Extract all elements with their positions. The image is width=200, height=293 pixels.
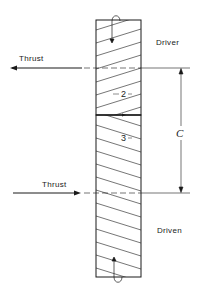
- driven-label: Driven: [157, 226, 182, 235]
- contact-point-marker: [122, 114, 126, 117]
- gear-3-body: [96, 115, 141, 277]
- gear-2-hatching: [96, 16, 141, 121]
- thrust-bottom-label: Thrust: [42, 180, 67, 189]
- gear-2-label: 2: [121, 89, 126, 99]
- center-distance-label: C: [176, 127, 184, 139]
- gear-3-hatching: [96, 112, 141, 282]
- gear-3-label: 3: [121, 133, 126, 143]
- gear-diagram: Thrust Thrust Driver Driven 2 3 C: [0, 0, 200, 293]
- rotation-arrow-up-icon: [112, 257, 122, 282]
- arrow-left-icon: [10, 66, 17, 71]
- driver-label: Driver: [156, 38, 179, 47]
- thrust-top-label: Thrust: [19, 54, 44, 63]
- arrow-right-icon: [74, 191, 81, 196]
